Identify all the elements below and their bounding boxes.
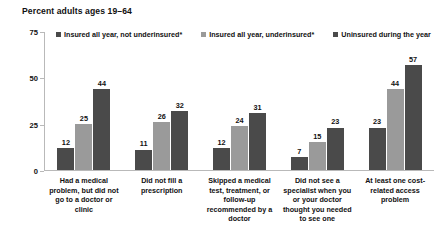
bar-value-label: 32: [176, 102, 184, 109]
bar-value-label: 25: [80, 115, 88, 122]
bar-column: 23: [327, 32, 344, 170]
bar[interactable]: [57, 148, 74, 170]
bar-column: 24: [231, 32, 248, 170]
category-labels: Had a medical problem, but did not go to…: [45, 176, 434, 224]
y-axis-label: 0: [34, 167, 38, 176]
y-axis-tick: [40, 125, 44, 126]
bar-column: 31: [249, 32, 266, 170]
y-axis-tick: [40, 32, 44, 33]
bar[interactable]: [93, 89, 110, 170]
bar-value-label: 12: [217, 139, 225, 146]
category-label: Had a medical problem, but did not go to…: [45, 176, 123, 224]
bar-value-label: 24: [235, 117, 243, 124]
bar-value-label: 7: [297, 148, 301, 155]
bar-column: 32: [171, 32, 188, 170]
bar[interactable]: [309, 142, 326, 170]
chart-title: Percent adults ages 19–64: [22, 6, 132, 16]
bar-group: 112632: [123, 32, 201, 170]
bar[interactable]: [327, 128, 344, 170]
bar-group: 71523: [278, 32, 356, 170]
plot-area: 0255075 12254411263212243171523234457: [44, 32, 434, 171]
bar-value-label: 11: [140, 140, 148, 147]
y-axis-label: 75: [30, 28, 38, 37]
bar-value-label: 12: [62, 139, 70, 146]
bar-column: 26: [153, 32, 170, 170]
bar-value-label: 15: [313, 133, 321, 140]
bar-chart: Percent adults ages 19–64 Insured all ye…: [0, 0, 438, 248]
bar-value-label: 44: [98, 80, 106, 87]
bar-column: 23: [369, 32, 386, 170]
category-label: Did not fill a prescription: [123, 176, 201, 224]
bar-value-label: 23: [331, 118, 339, 125]
bar-column: 15: [309, 32, 326, 170]
x-axis-baseline: [44, 170, 434, 171]
bar[interactable]: [249, 113, 266, 170]
bar[interactable]: [171, 111, 188, 170]
bar-group: 122544: [45, 32, 123, 170]
bar-value-label: 23: [373, 118, 381, 125]
bar-column: 7: [291, 32, 308, 170]
bar-group: 234457: [356, 32, 434, 170]
bar-column: 44: [387, 32, 404, 170]
bar[interactable]: [231, 126, 248, 170]
bar-value-label: 31: [253, 104, 261, 111]
y-axis-label: 25: [30, 120, 38, 129]
category-label: Skipped a medical test, treatment, or fo…: [201, 176, 279, 224]
bar-column: 25: [75, 32, 92, 170]
bar[interactable]: [387, 89, 404, 170]
bar[interactable]: [213, 148, 230, 170]
category-label: Did not see a specialist when you or you…: [278, 176, 356, 224]
bar-column: 44: [93, 32, 110, 170]
bar-value-label: 57: [409, 56, 417, 63]
bar-value-label: 44: [391, 80, 399, 87]
bar-groups: 12254411263212243171523234457: [45, 32, 434, 170]
y-axis-tick: [40, 171, 44, 172]
bar[interactable]: [369, 128, 386, 170]
bar-column: 57: [405, 32, 422, 170]
bar[interactable]: [405, 65, 422, 170]
category-label: At least one cost-related access problem: [356, 176, 434, 224]
bar-group: 122431: [201, 32, 279, 170]
bar[interactable]: [135, 150, 152, 170]
bar[interactable]: [153, 122, 170, 170]
bar[interactable]: [291, 157, 308, 170]
bar-column: 12: [213, 32, 230, 170]
bar-column: 11: [135, 32, 152, 170]
y-axis-tick: [40, 78, 44, 79]
bar-value-label: 26: [158, 113, 166, 120]
bar-column: 12: [57, 32, 74, 170]
bar[interactable]: [75, 124, 92, 170]
y-axis-label: 50: [30, 74, 38, 83]
